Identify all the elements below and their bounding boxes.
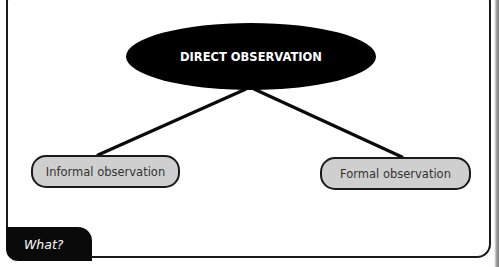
child-node-label: Informal observation [46,165,165,179]
what-tab-label: What? [24,237,63,252]
child-node-label: Formal observation [340,167,451,181]
root-node-direct-observation: DIRECT OBSERVATION [126,23,376,90]
root-node-label: DIRECT OBSERVATION [180,50,322,64]
edge-to-informal [98,89,246,155]
child-node-formal-observation: Formal observation [320,157,471,190]
child-node-informal-observation: Informal observation [31,155,180,188]
what-tab: What? [6,227,92,261]
edge-to-formal [254,89,402,157]
